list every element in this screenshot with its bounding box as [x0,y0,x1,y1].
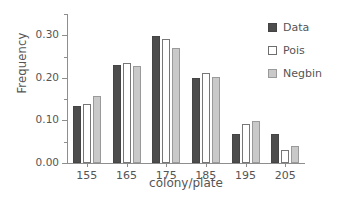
x-tick [206,163,207,167]
bar-data-165 [113,65,121,163]
y-tick-label: 0.00 [36,156,59,168]
y-tick-major: 0.20 [62,78,67,79]
y-tick-minor [64,142,67,143]
bar-group [113,14,141,163]
y-tick-minor [64,57,67,58]
legend-swatch-icon [268,23,277,32]
bar-negbin-185 [212,77,220,163]
bar-group [73,14,101,163]
bar-data-205 [271,134,279,163]
y-tick-major: 0.00 [62,163,67,164]
caption-remnant [0,203,351,210]
bar-negbin-205 [291,146,299,163]
bar-pois-175 [162,39,170,163]
x-tick [285,163,286,167]
bar-pois-185 [202,73,210,163]
y-tick-minor [64,14,67,15]
bar-negbin-195 [252,121,260,163]
bar-group [192,14,220,163]
legend-item-data[interactable]: Data [268,18,322,37]
bar-data-155 [73,106,81,163]
chart-legend: DataPoisNegbin [268,18,322,87]
x-axis-label: colony/plate [67,176,305,190]
legend-label: Pois [283,44,305,57]
bar-negbin-155 [93,96,101,163]
bar-negbin-165 [133,66,141,163]
y-tick-minor [64,99,67,100]
x-axis-line [67,163,305,164]
x-tick [87,163,88,167]
y-axis-line [67,14,68,163]
y-tick-label: 0.10 [36,113,59,125]
bar-negbin-175 [172,48,180,163]
bar-chart-figure: Frequency 0.000.100.200.30 1551651751851… [0,0,351,210]
bar-data-185 [192,78,200,163]
y-tick-major: 0.10 [62,120,67,121]
bar-pois-165 [123,63,131,163]
bar-pois-155 [83,104,91,163]
bar-pois-205 [281,150,289,163]
legend-swatch-icon [268,69,277,78]
bar-data-175 [152,36,160,163]
legend-label: Data [283,21,309,34]
bar-group [152,14,180,163]
x-tick [246,163,247,167]
bar-group [232,14,260,163]
y-axis-label: Frequency [15,3,29,123]
bar-data-195 [232,134,240,163]
y-tick-major: 0.30 [62,35,67,36]
bar-pois-195 [242,124,250,163]
y-tick-label: 0.30 [36,28,59,40]
x-tick [166,163,167,167]
legend-swatch-icon [268,46,277,55]
y-tick-label: 0.20 [36,71,59,83]
legend-item-negbin[interactable]: Negbin [268,64,322,83]
x-tick [127,163,128,167]
legend-item-pois[interactable]: Pois [268,41,322,60]
legend-label: Negbin [283,67,322,80]
